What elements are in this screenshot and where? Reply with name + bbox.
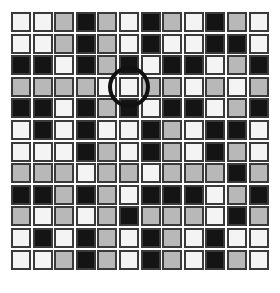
grid-cell[interactable]	[97, 120, 117, 140]
grid-cell[interactable]	[119, 55, 139, 75]
grid-cell[interactable]	[76, 163, 96, 183]
grid-cell[interactable]	[76, 185, 96, 205]
grid-cell[interactable]	[54, 120, 74, 140]
grid-cell[interactable]	[184, 120, 204, 140]
grid-cell[interactable]	[119, 142, 139, 162]
grid-cell[interactable]	[162, 98, 182, 118]
grid-cell[interactable]	[33, 228, 53, 248]
grid-cell[interactable]	[162, 142, 182, 162]
grid-cell[interactable]	[162, 228, 182, 248]
grid-cell[interactable]	[33, 98, 53, 118]
grid-cell[interactable]	[227, 185, 247, 205]
grid-cell[interactable]	[141, 120, 161, 140]
grid-cell[interactable]	[227, 98, 247, 118]
grid-cell[interactable]	[119, 34, 139, 54]
grid-cell[interactable]	[119, 185, 139, 205]
grid-cell[interactable]	[162, 55, 182, 75]
grid-cell[interactable]	[141, 250, 161, 270]
grid-cell[interactable]	[141, 163, 161, 183]
grid-cell[interactable]	[11, 120, 31, 140]
grid-cell[interactable]	[33, 206, 53, 226]
grid-cell[interactable]	[119, 250, 139, 270]
grid-cell[interactable]	[97, 55, 117, 75]
grid-cell[interactable]	[11, 206, 31, 226]
grid-cell[interactable]	[184, 250, 204, 270]
grid-cell[interactable]	[227, 77, 247, 97]
grid-cell[interactable]	[54, 250, 74, 270]
grid-cell[interactable]	[76, 98, 96, 118]
grid-cell[interactable]	[162, 206, 182, 226]
grid-cell[interactable]	[184, 185, 204, 205]
grid-cell[interactable]	[184, 34, 204, 54]
grid-cell[interactable]	[33, 163, 53, 183]
grid-cell[interactable]	[11, 142, 31, 162]
grid-cell[interactable]	[11, 163, 31, 183]
grid-cell[interactable]	[33, 77, 53, 97]
grid-cell[interactable]	[119, 228, 139, 248]
grid-cell[interactable]	[54, 185, 74, 205]
grid-cell[interactable]	[162, 250, 182, 270]
grid-cell[interactable]	[249, 77, 269, 97]
grid-cell[interactable]	[205, 55, 225, 75]
grid-cell[interactable]	[11, 185, 31, 205]
grid-cell[interactable]	[227, 250, 247, 270]
grid-cell[interactable]	[33, 250, 53, 270]
grid-cell[interactable]	[54, 163, 74, 183]
grid-cell[interactable]	[249, 55, 269, 75]
grid-cell[interactable]	[249, 120, 269, 140]
grid-cell[interactable]	[141, 34, 161, 54]
grid-cell[interactable]	[97, 34, 117, 54]
grid-cell[interactable]	[184, 77, 204, 97]
grid-cell[interactable]	[11, 98, 31, 118]
grid-cell[interactable]	[76, 77, 96, 97]
grid-cell[interactable]	[141, 142, 161, 162]
grid-cell[interactable]	[227, 55, 247, 75]
grid-cell[interactable]	[11, 250, 31, 270]
grid-cell[interactable]	[76, 34, 96, 54]
grid-cell[interactable]	[54, 55, 74, 75]
grid-cell[interactable]	[205, 120, 225, 140]
grid-cell[interactable]	[119, 12, 139, 32]
grid-cell[interactable]	[76, 55, 96, 75]
grid-cell[interactable]	[141, 185, 161, 205]
grid-cell[interactable]	[33, 12, 53, 32]
grid-cell[interactable]	[205, 142, 225, 162]
grid-cell[interactable]	[227, 34, 247, 54]
grid-cell[interactable]	[162, 34, 182, 54]
grid-cell[interactable]	[184, 206, 204, 226]
grid-cell[interactable]	[76, 228, 96, 248]
grid-cell[interactable]	[249, 228, 269, 248]
grid-cell[interactable]	[119, 98, 139, 118]
grid-cell[interactable]	[205, 250, 225, 270]
grid-cell[interactable]	[11, 77, 31, 97]
grid-cell[interactable]	[141, 77, 161, 97]
grid-cell[interactable]	[76, 206, 96, 226]
grid-cell[interactable]	[97, 142, 117, 162]
grid-cell[interactable]	[184, 228, 204, 248]
grid-cell[interactable]	[162, 120, 182, 140]
grid-cell[interactable]	[227, 228, 247, 248]
grid-cell[interactable]	[119, 163, 139, 183]
grid-cell[interactable]	[11, 34, 31, 54]
grid-cell[interactable]	[76, 142, 96, 162]
grid-cell[interactable]	[54, 228, 74, 248]
grid-cell[interactable]	[11, 12, 31, 32]
grid-cell[interactable]	[97, 12, 117, 32]
grid-cell[interactable]	[54, 206, 74, 226]
grid-cell[interactable]	[97, 77, 117, 97]
grid-cell[interactable]	[141, 228, 161, 248]
grid-cell[interactable]	[249, 163, 269, 183]
grid-cell[interactable]	[249, 206, 269, 226]
grid-cell[interactable]	[162, 185, 182, 205]
grid-cell[interactable]	[205, 34, 225, 54]
grid-cell[interactable]	[249, 34, 269, 54]
grid-cell[interactable]	[119, 206, 139, 226]
grid-cell[interactable]	[184, 55, 204, 75]
grid-cell[interactable]	[249, 250, 269, 270]
grid-cell[interactable]	[184, 163, 204, 183]
grid-cell[interactable]	[33, 142, 53, 162]
grid-cell[interactable]	[184, 142, 204, 162]
grid-cell[interactable]	[249, 98, 269, 118]
grid-cell[interactable]	[184, 98, 204, 118]
grid-cell[interactable]	[227, 12, 247, 32]
